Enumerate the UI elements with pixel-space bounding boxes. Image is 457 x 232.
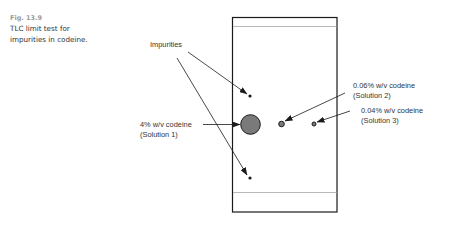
impurity-spot-lower bbox=[248, 176, 251, 179]
tlc-diagram: Impurities 4% w/v codeine (Solution 1) 0… bbox=[0, 0, 457, 232]
label-solution-1-line-1: 4% w/v codeine bbox=[140, 120, 192, 129]
label-solution-3-line-2: (Solution 3) bbox=[361, 116, 399, 125]
main-spot-solution-1 bbox=[241, 115, 261, 135]
label-solution-2-line-1: 0.06% w/v codeine bbox=[353, 81, 415, 90]
spot-solution-3 bbox=[312, 122, 316, 126]
label-solution-2-line-2: (Solution 2) bbox=[353, 91, 391, 100]
label-impurities: Impurities bbox=[150, 40, 182, 49]
impurity-spot-upper bbox=[248, 94, 251, 97]
label-solution-3-line-1: 0.04% w/v codeine bbox=[361, 106, 423, 115]
spot-solution-2 bbox=[279, 121, 285, 127]
label-solution-1-line-2: (Solution 1) bbox=[140, 130, 178, 139]
